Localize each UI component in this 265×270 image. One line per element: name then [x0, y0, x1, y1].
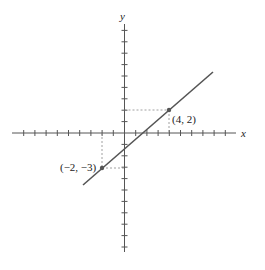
coordinate-plane: (4, 2) (−2, −3) x y [0, 0, 265, 270]
point-label-neg2-neg3: (−2, −3) [60, 161, 97, 174]
x-axis-label: x [240, 127, 246, 139]
point-neg2-neg3 [100, 166, 104, 170]
y-axis-label: y [119, 10, 125, 22]
point-label-4-2: (4, 2) [172, 113, 196, 126]
point-4-2 [167, 108, 171, 112]
